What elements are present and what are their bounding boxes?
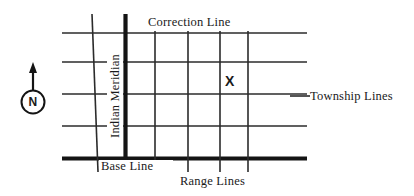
indian-meridian-label: Indian Meridian (109, 54, 122, 138)
correction-line-label: Correction Line (148, 16, 231, 29)
north-letter-label: N (29, 96, 38, 108)
range-lines-label: Range Lines (180, 175, 245, 188)
township-lines-label: Township Lines (310, 90, 393, 103)
base-line-label: Base Line (101, 160, 153, 173)
range-line-slanted (92, 14, 98, 172)
township-lines-group (62, 33, 307, 126)
survey-diagram: Correction Line Township Lines Range Lin… (0, 0, 414, 196)
x-location-marker: X (225, 74, 235, 88)
north-arrow-head (29, 62, 37, 73)
